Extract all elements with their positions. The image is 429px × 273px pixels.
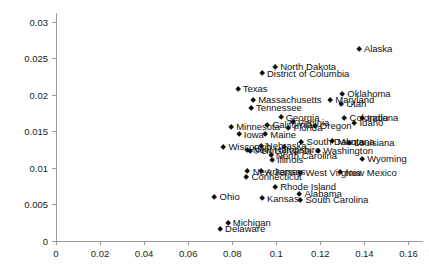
x-tick-label: 0 <box>53 248 58 259</box>
x-tick-label: 0.02 <box>91 248 110 259</box>
y-tick-mark <box>52 131 56 132</box>
data-point-label: Alaska <box>364 43 393 54</box>
diamond-marker-icon <box>359 156 365 162</box>
x-tick-mark <box>100 241 101 245</box>
x-tick-label: 0.04 <box>135 248 154 259</box>
y-tick-mark <box>52 95 56 96</box>
x-tick-mark <box>364 241 365 245</box>
x-tick-mark <box>56 241 57 245</box>
x-tick-mark <box>408 241 409 245</box>
diamond-marker-icon <box>327 97 333 103</box>
y-tick-mark <box>52 168 56 169</box>
data-point-label: Idaho <box>359 117 383 128</box>
diamond-marker-icon <box>236 132 242 138</box>
y-tick-label: 0 <box>43 236 48 247</box>
x-tick-mark <box>320 241 321 245</box>
y-tick-label: 0.02 <box>30 89 49 100</box>
data-point-label: Delaware <box>225 223 265 234</box>
diamond-marker-icon <box>297 197 303 203</box>
data-point-label: Iowa <box>244 129 264 140</box>
y-tick-mark <box>52 58 56 59</box>
data-point-label: Maine <box>270 129 296 140</box>
diamond-marker-icon <box>211 194 217 200</box>
diamond-marker-icon <box>235 86 241 92</box>
y-tick-label: 0.015 <box>24 126 48 137</box>
x-tick-label: 0.12 <box>311 248 330 259</box>
y-tick-label: 0.025 <box>24 53 48 64</box>
y-tick-label: 0.03 <box>30 16 49 27</box>
diamond-marker-icon <box>259 71 265 77</box>
data-point-label: South Carolina <box>306 194 369 205</box>
diamond-marker-icon <box>220 144 226 150</box>
data-point-label: Kansas <box>267 193 299 204</box>
diamond-marker-icon <box>272 184 278 190</box>
x-tick-mark <box>276 241 277 245</box>
data-point-label: Ohio <box>220 191 240 202</box>
data-point-label: New Mexico <box>345 167 397 178</box>
data-point-label: Florida <box>293 122 322 133</box>
x-tick-mark <box>232 241 233 245</box>
data-point-label: District of Columbia <box>267 68 349 79</box>
y-tick-mark <box>52 204 56 205</box>
x-axis-line <box>56 241 423 242</box>
diamond-marker-icon <box>269 157 275 163</box>
x-tick-label: 0.14 <box>355 248 374 259</box>
y-axis-line <box>56 13 57 241</box>
x-tick-label: 0.08 <box>223 248 242 259</box>
data-point-label: Texas <box>243 83 268 94</box>
x-tick-label: 0.16 <box>399 248 418 259</box>
data-point-label: Utah <box>346 98 366 109</box>
x-tick-label: 0.06 <box>179 248 198 259</box>
diamond-marker-icon <box>243 174 249 180</box>
data-point-label: Illinois <box>277 154 303 165</box>
x-tick-mark <box>144 241 145 245</box>
diamond-marker-icon <box>356 46 362 52</box>
data-point-label: Oregon <box>320 120 352 131</box>
diamond-marker-icon <box>217 226 223 232</box>
diamond-marker-icon <box>228 124 234 130</box>
diamond-marker-icon <box>248 105 254 111</box>
diamond-marker-icon <box>259 196 265 202</box>
scatter-chart: 00.0050.010.0150.020.0250.03 00.020.040.… <box>0 0 429 273</box>
data-point-label: Wyoming <box>367 153 407 164</box>
y-tick-label: 0.01 <box>30 162 49 173</box>
y-tick-mark <box>52 22 56 23</box>
y-tick-label: 0.005 <box>24 199 48 210</box>
x-tick-label: 0.1 <box>270 248 283 259</box>
x-tick-mark <box>188 241 189 245</box>
